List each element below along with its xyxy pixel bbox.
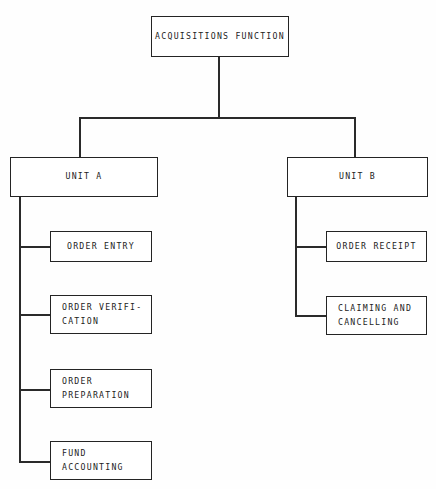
node-label: ORDER ENTRY: [67, 240, 135, 253]
org-chart-diagram: ACQUISITIONS FUNCTION UNIT A UNIT B ORDE…: [0, 0, 436, 489]
node-order-preparation[interactable]: ORDER PREPARATION: [50, 369, 152, 408]
node-label: UNIT A: [65, 170, 102, 183]
connector-root-stem: [218, 57, 220, 118]
connector-stub-fund-accounting: [19, 461, 51, 463]
node-order-verification[interactable]: ORDER VERIFI- CATION: [50, 295, 152, 334]
node-label: ORDER PREPARATION: [62, 375, 130, 402]
connector-trunk-unit-a: [19, 197, 21, 462]
node-label: CLAIMING AND CANCELLING: [338, 302, 412, 329]
node-unit-a[interactable]: UNIT A: [10, 157, 158, 197]
connector-stub-order-receipt: [295, 246, 327, 248]
node-label: ACQUISITIONS FUNCTION: [155, 30, 285, 43]
connector-stub-order-verification: [19, 314, 51, 316]
node-order-receipt[interactable]: ORDER RECEIPT: [326, 231, 427, 262]
node-order-entry[interactable]: ORDER ENTRY: [50, 231, 152, 262]
node-claiming-and-cancelling[interactable]: CLAIMING AND CANCELLING: [326, 296, 427, 335]
connector-stub-order-preparation: [19, 389, 51, 391]
node-label: ORDER VERIFI- CATION: [62, 301, 142, 328]
node-acquisitions-function[interactable]: ACQUISITIONS FUNCTION: [151, 16, 289, 57]
connector-main-bus: [79, 117, 355, 119]
node-label: FUND ACCOUNTING: [62, 447, 124, 474]
node-unit-b[interactable]: UNIT B: [287, 157, 428, 197]
node-label: ORDER RECEIPT: [336, 240, 416, 253]
connector-stub-claiming-and-cancelling: [295, 315, 327, 317]
connector-stub-order-entry: [19, 246, 51, 248]
connector-drop-unit-a: [79, 117, 81, 158]
node-fund-accounting[interactable]: FUND ACCOUNTING: [50, 441, 152, 480]
node-label: UNIT B: [339, 170, 376, 183]
connector-trunk-unit-b: [295, 197, 297, 316]
connector-drop-unit-b: [354, 117, 356, 158]
